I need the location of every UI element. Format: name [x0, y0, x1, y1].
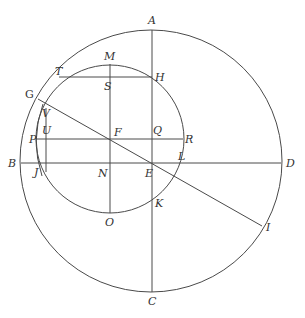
label-O: O [105, 216, 114, 229]
label-R: R [184, 133, 193, 146]
label-A: A [147, 14, 156, 27]
label-K: K [154, 197, 164, 210]
label-U: U [42, 124, 52, 137]
label-P: P [28, 133, 37, 146]
label-T: T [55, 65, 64, 78]
label-E: E [144, 167, 153, 180]
label-C: C [148, 295, 157, 308]
label-J: J [32, 166, 39, 179]
label-B: B [7, 157, 16, 170]
label-L: L [177, 150, 185, 163]
geometry-diagram: A B C D E F G H I J K L M N O P Q R S T … [0, 0, 305, 318]
label-M: M [103, 50, 116, 63]
label-I: I [265, 221, 271, 234]
label-S: S [104, 80, 112, 93]
label-D: D [285, 157, 295, 170]
label-H: H [154, 71, 165, 84]
point-labels: A B C D E F G H I J K L M N O P Q R S T … [7, 14, 295, 308]
label-V: V [42, 107, 51, 120]
label-Q: Q [153, 124, 162, 137]
label-G: G [25, 88, 34, 101]
label-F: F [113, 126, 122, 139]
label-N: N [97, 167, 108, 180]
